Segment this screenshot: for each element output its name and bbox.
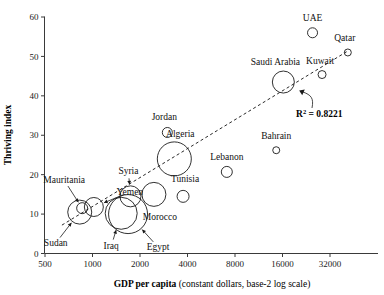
scatter-plot: 0102030405060500100020004000800016000320… [0, 0, 384, 295]
r-squared-annotation: R2 = 0.8221 [296, 108, 343, 119]
y-tick-label: 40 [30, 91, 40, 101]
x-tick-label: 16000 [271, 259, 294, 269]
data-point-algeria[interactable] [157, 142, 191, 176]
data-point-uae[interactable] [308, 28, 318, 38]
point-label-mauritania: Mauritania [43, 175, 85, 185]
y-tick-label: 60 [30, 12, 40, 22]
chart-container: 0102030405060500100020004000800016000320… [0, 0, 384, 295]
point-label-iraq: Iraq [104, 241, 120, 251]
data-point-lebanon[interactable] [221, 166, 232, 177]
x-axis-title: GDP per capita (constant dollars, base-2… [114, 279, 311, 290]
y-tick-label: 30 [30, 130, 40, 140]
y-axis-title: Thriving index [3, 105, 13, 166]
point-label-bahrain: Bahrain [261, 131, 291, 141]
x-tick-label: 1000 [84, 259, 103, 269]
y-tick-label: 0 [34, 249, 39, 259]
x-tick-label: 4000 [179, 259, 198, 269]
point-label-qatar: Qatar [334, 33, 356, 43]
y-tick-label: 50 [30, 52, 40, 62]
point-label-sudan: Sudan [44, 238, 68, 248]
y-tick-label: 20 [30, 170, 40, 180]
data-point-kuwait[interactable] [318, 71, 326, 79]
data-point-tunisia[interactable] [177, 190, 189, 202]
x-tick-label: 2000 [131, 259, 150, 269]
y-tick-label: 10 [30, 209, 40, 219]
point-label-kuwait: Kuwait [306, 56, 334, 66]
point-label-algeria: Algeria [166, 129, 195, 139]
x-tick-label: 8000 [226, 259, 245, 269]
point-label-saudi-arabia: Saudi Arabia [251, 57, 301, 67]
x-tick-label: 32000 [319, 259, 342, 269]
data-point-bahrain[interactable] [273, 147, 280, 154]
trendline [62, 51, 349, 226]
x-tick-label: 500 [38, 259, 52, 269]
data-point-morocco[interactable] [142, 182, 166, 206]
r-squared-leader-line [303, 92, 313, 108]
point-label-jordan: Jordan [152, 112, 178, 122]
leader-arrowhead [68, 223, 72, 227]
point-label-egypt: Egypt [147, 242, 170, 252]
point-label-lebanon: Lebanon [210, 152, 243, 162]
point-label-syria: Syria [118, 166, 139, 176]
point-label-uae: UAE [303, 13, 323, 23]
point-label-morocco: Morocco [143, 212, 178, 222]
